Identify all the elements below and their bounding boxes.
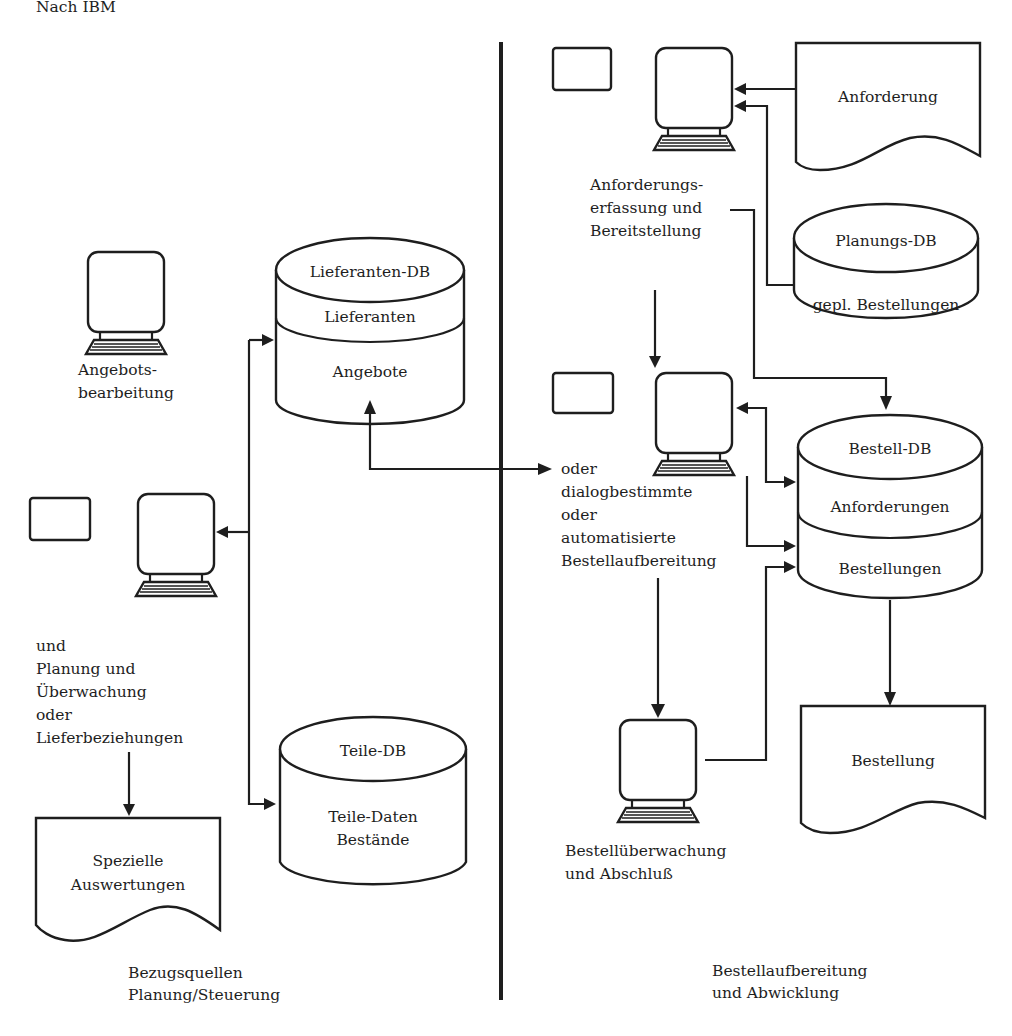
svg-text:dialogbestimmte: dialogbestimmte	[561, 483, 692, 501]
source-note: Nach IBM	[36, 0, 116, 16]
monitor-icon	[136, 494, 216, 596]
section-label-left-1: Bezugsquellen	[128, 964, 243, 982]
database-bestell: Bestell-DB Anforderungen Bestellungen	[798, 415, 982, 598]
terminal-label-planung: und Planung und Überwachung oder Lieferb…	[36, 637, 183, 747]
svg-text:Bestände: Bestände	[336, 831, 409, 849]
svg-text:Teile-DB: Teile-DB	[340, 742, 406, 760]
card-reader-icon	[553, 373, 613, 413]
monitor-icon	[654, 48, 734, 150]
db-segment: Lieferanten	[324, 308, 415, 326]
svg-text:erfassung und: erfassung und	[590, 199, 702, 217]
svg-text:Planung und: Planung und	[36, 660, 135, 678]
document-anforderung: Anforderung	[796, 43, 980, 170]
svg-text:automatisierte: automatisierte	[561, 529, 676, 547]
monitor-icon	[86, 252, 166, 354]
terminal-label-bestellaufbereitung: oder dialogbestimmte oder automatisierte…	[561, 460, 717, 570]
svg-text:Planungs-DB: Planungs-DB	[835, 232, 937, 250]
db-title: Lieferanten-DB	[310, 263, 430, 281]
svg-text:Anforderungs-: Anforderungs-	[589, 176, 703, 194]
procurement-diagram: Nach IBM Angebots- bearbeitung Lieferant…	[0, 0, 1012, 1036]
svg-text:Lieferbeziehungen: Lieferbeziehungen	[36, 729, 183, 747]
svg-text:Bestellungen: Bestellungen	[839, 560, 942, 578]
svg-text:Bestellaufbereitung: Bestellaufbereitung	[561, 552, 717, 570]
svg-text:oder: oder	[36, 706, 72, 724]
card-reader-icon	[30, 498, 90, 540]
svg-text:gepl. Bestellungen: gepl. Bestellungen	[813, 296, 960, 314]
document-bestellung: Bestellung	[801, 706, 985, 833]
section-label-right-1: Bestellaufbereitung	[712, 962, 868, 980]
svg-text:Teile-Daten: Teile-Daten	[328, 808, 418, 826]
monitor-icon	[618, 720, 698, 822]
database-planung: Planungs-DB gepl. Bestellungen	[794, 204, 978, 318]
svg-text:Überwachung: Überwachung	[36, 683, 147, 701]
svg-text:und: und	[36, 637, 66, 655]
svg-text:Bestellüberwachung: Bestellüberwachung	[565, 842, 726, 860]
section-label-right-2: und Abwicklung	[712, 984, 839, 1002]
svg-text:Spezielle: Spezielle	[92, 852, 163, 870]
svg-text:und Abschluß: und Abschluß	[565, 865, 673, 883]
card-reader-icon	[553, 48, 611, 90]
section-label-left-2: Planung/Steuerung	[128, 986, 280, 1004]
terminal-label-ueberwachung: Bestellüberwachung und Abschluß	[565, 842, 726, 883]
terminal-label-angebot-2: bearbeitung	[78, 384, 174, 402]
database-lieferanten: Lieferanten-DB Lieferanten Angebote	[276, 238, 464, 424]
document-auswertungen: Spezielle Auswertungen	[36, 818, 220, 941]
svg-text:Bestellung: Bestellung	[851, 752, 935, 770]
db-segment: Angebote	[332, 363, 408, 381]
terminal-label-anforderung: Anforderungs- erfassung und Bereitstellu…	[589, 176, 703, 240]
svg-text:Anforderung: Anforderung	[837, 88, 938, 106]
svg-text:Auswertungen: Auswertungen	[70, 876, 185, 894]
svg-text:oder: oder	[561, 460, 597, 478]
svg-text:Anforderungen: Anforderungen	[829, 498, 949, 516]
database-teile: Teile-DB Teile-Daten Bestände	[280, 717, 466, 884]
terminal-label-angebot-1: Angebots-	[77, 361, 157, 379]
svg-text:oder: oder	[561, 506, 597, 524]
svg-text:Bestell-DB: Bestell-DB	[849, 440, 932, 458]
svg-text:Bereitstellung: Bereitstellung	[590, 222, 702, 240]
monitor-icon	[654, 373, 734, 475]
